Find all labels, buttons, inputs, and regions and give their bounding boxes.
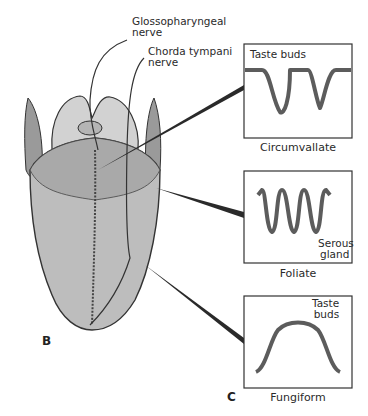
caption-foliate: Foliate xyxy=(244,267,352,280)
lingual-tonsil xyxy=(78,121,102,135)
serous-gland-label: Serous gland xyxy=(318,238,354,260)
label-line: gland xyxy=(318,249,354,260)
label-line: nerve xyxy=(132,27,226,38)
taste-buds-label-fungiform: Taste buds xyxy=(312,298,339,320)
pointer-foliate xyxy=(156,188,244,218)
label-line: buds xyxy=(312,309,339,320)
panel-label-b: B xyxy=(42,334,51,348)
caption-fungiform: Fungiform xyxy=(244,391,352,404)
label-line: nerve xyxy=(148,57,232,68)
chorda-tympani-label: Chorda tympani nerve xyxy=(148,46,232,68)
glossopharyngeal-label: Glossopharyngeal nerve xyxy=(132,16,226,38)
caption-circumvallate: Circumvallate xyxy=(244,141,352,154)
taste-buds-label-circumvallate: Taste buds xyxy=(250,49,306,60)
panel-label-c: C xyxy=(227,390,236,404)
pointer-fungiform xyxy=(145,265,244,344)
